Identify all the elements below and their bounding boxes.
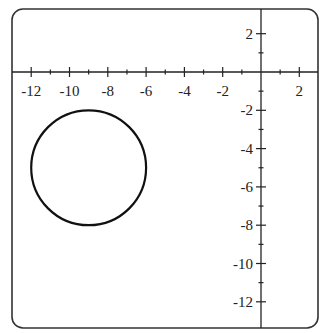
y-tick-label: 2 [246,26,254,42]
y-tick-label: -10 [233,256,253,272]
x-tick-label: -12 [21,83,41,99]
x-tick-label: -8 [102,83,115,99]
ticks [31,34,299,302]
x-tick-label: -10 [60,83,80,99]
y-tick-label: -12 [233,294,253,310]
y-tick-label: -2 [241,102,254,118]
curves [31,110,146,225]
plot-canvas: -12-10-8-6-4-222-2-4-6-8-10-12 [0,0,325,333]
y-tick-label: -4 [241,141,254,157]
circle-curve [31,110,146,225]
x-tick-label: -2 [216,83,229,99]
x-tick-label: -4 [178,83,191,99]
y-tick-label: -6 [241,179,254,195]
x-tick-label: -6 [140,83,153,99]
plot-frame [12,9,318,328]
y-tick-label: -8 [241,217,254,233]
axes [12,9,318,328]
x-tick-label: 2 [296,83,304,99]
